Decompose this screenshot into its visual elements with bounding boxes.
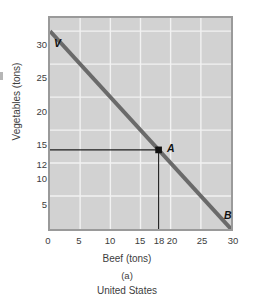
y-tick-10: 10 xyxy=(25,174,47,184)
y-tick-20: 20 xyxy=(25,107,47,117)
x-tick-30: 30 xyxy=(222,236,244,246)
x-tick-0: 0 xyxy=(37,236,59,246)
point-label-b: B xyxy=(224,210,232,221)
edge-artifact xyxy=(0,72,3,80)
vertical-gridlines xyxy=(80,18,201,229)
y-tick-15: 15 xyxy=(25,140,47,150)
x-tick-10: 10 xyxy=(99,236,121,246)
point-label-a: A xyxy=(167,143,175,154)
point-a-marker xyxy=(155,147,162,154)
y-tick-12: 12 xyxy=(25,160,47,170)
x-tick-25: 25 xyxy=(191,236,213,246)
panel-letter: (a) xyxy=(0,270,254,281)
plot-canvas xyxy=(50,18,231,229)
ppf-chart-figure: V A B 30 25 20 15 12 10 5 0 5 10 15 18 2… xyxy=(0,0,254,303)
x-tick-5: 5 xyxy=(68,236,90,246)
x-tick-20: 20 xyxy=(161,236,183,246)
y-axis-label: Vegetables (tons) xyxy=(11,42,22,162)
y-tick-5: 5 xyxy=(25,200,47,210)
panel-caption: United States xyxy=(0,285,254,296)
guide-lines xyxy=(50,150,159,229)
plot-area xyxy=(48,16,233,231)
y-tick-25: 25 xyxy=(25,73,47,83)
x-axis-label: Beef (tons) xyxy=(0,253,254,264)
y-tick-30: 30 xyxy=(25,40,47,50)
point-label-v: V xyxy=(54,38,61,49)
